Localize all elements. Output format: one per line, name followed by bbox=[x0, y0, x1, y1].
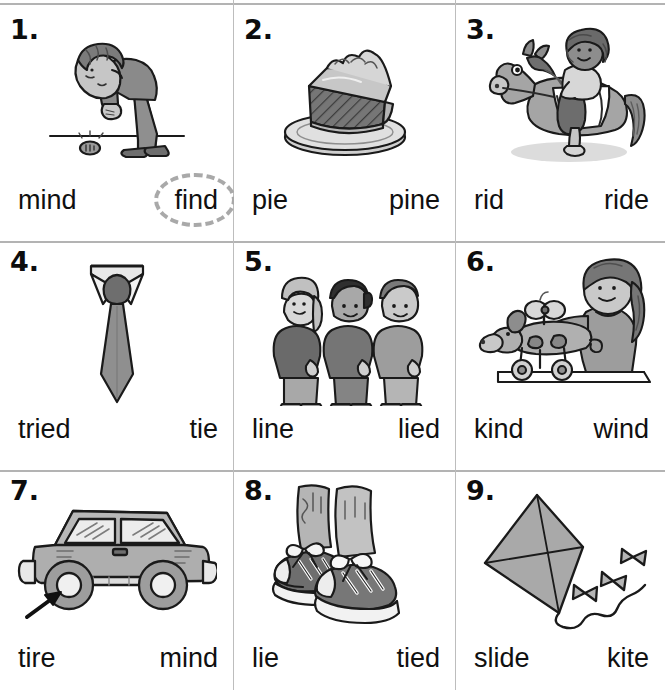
word-option-left[interactable]: pie bbox=[248, 185, 292, 216]
worksheet-item-3: 3. bbox=[456, 0, 665, 232]
word-choices: rid ride bbox=[470, 185, 653, 216]
worksheet-item-9: 9. bbox=[456, 461, 665, 690]
word-option-left[interactable]: rid bbox=[470, 185, 508, 216]
worksheet-grid: 1. bbox=[0, 0, 665, 690]
child-riding-horse-icon bbox=[456, 24, 665, 174]
word-choices: tire mind bbox=[14, 643, 222, 674]
worksheet-page: 1. bbox=[0, 0, 665, 690]
word-option-left[interactable]: mind bbox=[14, 185, 81, 216]
worksheet-item-8: 8. bbox=[234, 461, 456, 690]
word-choices: slide kite bbox=[470, 643, 653, 674]
word-option-right[interactable]: ride bbox=[600, 185, 653, 216]
word-option-right[interactable]: mind bbox=[155, 643, 222, 674]
word-option-right[interactable]: find bbox=[170, 185, 222, 216]
word-choices: kind wind bbox=[470, 414, 653, 445]
word-option-right[interactable]: lied bbox=[394, 414, 444, 445]
word-option-left[interactable]: lie bbox=[248, 643, 283, 674]
worksheet-item-2: 2. bbox=[234, 0, 456, 232]
word-choices: tried tie bbox=[14, 414, 222, 445]
word-option-right[interactable]: wind bbox=[589, 414, 653, 445]
worksheet-item-7: 7. bbox=[0, 461, 234, 690]
word-option-right[interactable]: tie bbox=[185, 414, 222, 445]
worksheet-item-1: 1. bbox=[0, 0, 234, 232]
word-choices: pie pine bbox=[248, 185, 444, 216]
worksheet-item-5: 5. bbox=[234, 232, 456, 461]
girl-winding-toy-dog-icon bbox=[456, 256, 665, 406]
word-choices: mind find bbox=[14, 185, 222, 216]
worksheet-item-4: 4. bbox=[0, 232, 234, 461]
word-option-left[interactable]: tire bbox=[14, 643, 60, 674]
word-option-left[interactable]: slide bbox=[470, 643, 534, 674]
worksheet-item-6: 6. bbox=[456, 232, 665, 461]
boy-finding-coin-icon bbox=[0, 24, 234, 174]
word-option-left[interactable]: kind bbox=[470, 414, 528, 445]
word-option-left[interactable]: tried bbox=[14, 414, 75, 445]
car-with-tire-arrow-icon bbox=[0, 485, 234, 635]
kite-icon bbox=[456, 485, 665, 635]
slice-of-pie-icon bbox=[234, 24, 456, 174]
word-choices: lie tied bbox=[248, 643, 444, 674]
word-option-right[interactable]: tied bbox=[392, 643, 444, 674]
children-in-line-icon bbox=[234, 256, 456, 406]
word-choices: line lied bbox=[248, 414, 444, 445]
word-option-right[interactable]: kite bbox=[603, 643, 653, 674]
word-option-right[interactable]: pine bbox=[385, 185, 444, 216]
tied-sneakers-icon bbox=[234, 485, 456, 635]
necktie-icon bbox=[0, 256, 234, 406]
word-option-left[interactable]: line bbox=[248, 414, 298, 445]
